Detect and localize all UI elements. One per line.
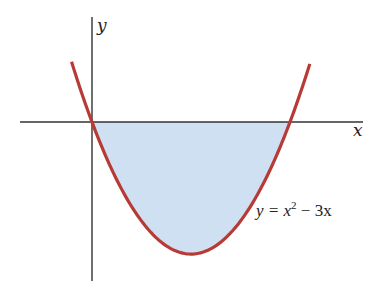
x-axis-label: x [353, 120, 363, 140]
parabola-diagram: y x y = x2 − 3x [0, 0, 387, 292]
y-axis-label: y [96, 15, 107, 35]
equation-label: y = x2 − 3x [254, 199, 332, 220]
